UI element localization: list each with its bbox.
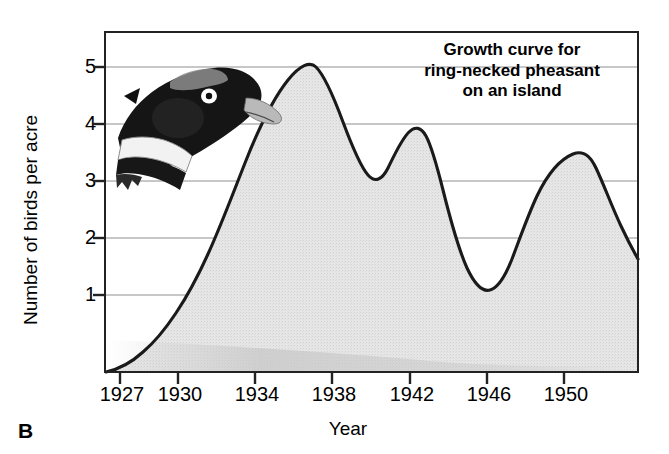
pheasant-pupil <box>206 93 212 99</box>
x-axis-label: Year <box>329 418 367 440</box>
x-tick-label-1930: 1930 <box>145 384 215 404</box>
x-tick-label-1946: 1946 <box>454 384 524 404</box>
chart-title-line-1: Growth curve for <box>396 40 628 61</box>
x-tick-label-group: 1927 1930 1934 1938 1942 1946 1950 <box>0 384 669 410</box>
x-tick-label-1934: 1934 <box>222 384 292 404</box>
figure-panel-b: Number of birds per acre 5 4 3 2 1 <box>0 0 669 454</box>
panel-letter: B <box>18 419 33 443</box>
chart-title: Growth curve for ring-necked pheasant on… <box>396 40 628 102</box>
x-tick-label-1942: 1942 <box>377 384 447 404</box>
x-tick-label-1938: 1938 <box>299 384 369 404</box>
pheasant-cheek-shading <box>152 98 204 138</box>
chart-title-line-2: ring-necked pheasant <box>396 61 628 82</box>
y-tick-marks <box>93 67 105 295</box>
x-tick-label-1950: 1950 <box>531 384 601 404</box>
chart-title-line-3: on an island <box>396 81 628 102</box>
